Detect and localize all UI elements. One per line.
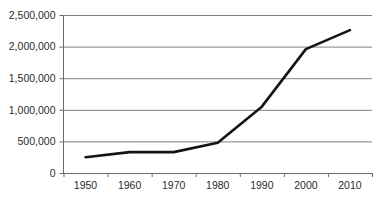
chart-canvas: 0500,0001,000,0001,500,0002,000,0002,500… <box>0 0 379 204</box>
x-axis-tick-label: 1950 <box>74 179 98 191</box>
y-axis-tick-label: 1,000,000 <box>9 104 56 116</box>
line-chart: 0500,0001,000,0001,500,0002,000,0002,500… <box>0 0 379 204</box>
y-axis-tick-label: 0 <box>50 167 56 179</box>
x-axis-tick-label: 2010 <box>338 179 362 191</box>
x-axis-tick-label: 2000 <box>294 179 318 191</box>
y-axis-tick-label: 2,000,000 <box>9 40 56 52</box>
x-axis-tick-label: 1980 <box>206 179 230 191</box>
y-axis-tick-label: 500,000 <box>18 135 56 147</box>
x-axis-tick-label: 1990 <box>250 179 274 191</box>
y-axis-tick-label: 2,500,000 <box>9 9 56 21</box>
y-axis-tick-label: 1,500,000 <box>9 72 56 84</box>
x-axis-tick-label: 1960 <box>118 179 142 191</box>
x-axis-tick-label: 1970 <box>162 179 186 191</box>
